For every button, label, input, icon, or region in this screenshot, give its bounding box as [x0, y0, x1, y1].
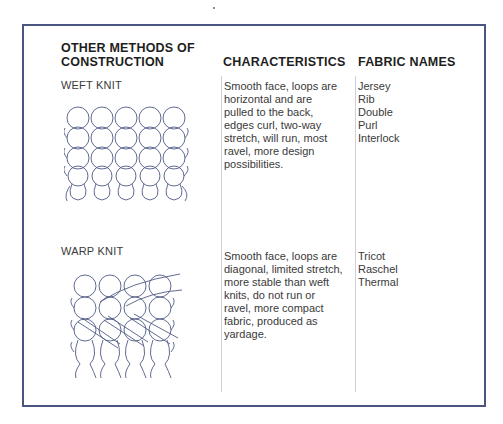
fabric-name: Purl — [358, 119, 468, 132]
fabric-name: Double — [358, 106, 468, 119]
characteristics-line: possibilities. — [224, 158, 352, 171]
header-methods: OTHER METHODS OF CONSTRUCTION — [61, 41, 201, 69]
characteristics-line: more stable than weft — [224, 276, 352, 289]
characteristics-warp-knit: Smooth face, loops are diagonal, limited… — [224, 250, 352, 341]
characteristics-line: yardage. — [224, 328, 352, 341]
header-characteristics: CHARACTERISTICS — [223, 55, 345, 69]
column-divider-characteristics — [221, 76, 222, 392]
header-methods-line2: CONSTRUCTION — [61, 55, 201, 69]
row-label-warp-knit: WARP KNIT — [61, 245, 123, 257]
stray-mark — [213, 7, 215, 9]
header-fabric-names: FABRIC NAMES — [358, 55, 456, 69]
fabric-name: Interlock — [358, 132, 468, 145]
fabric-name: Thermal — [358, 276, 468, 289]
characteristics-line: horizontal and are — [224, 93, 352, 106]
fabric-names-warp-knit: Tricot Raschel Thermal — [358, 250, 468, 289]
row-label-weft-knit: WEFT KNIT — [61, 79, 122, 91]
fabric-name: Jersey — [358, 80, 468, 93]
weft-knit-diagram-icon — [64, 106, 204, 206]
column-divider-fabric-names — [355, 76, 356, 392]
characteristics-line: Smooth face, loops are — [224, 80, 352, 93]
characteristics-line: edges curl, two-way — [224, 119, 352, 132]
header-methods-line1: OTHER METHODS OF — [61, 41, 201, 55]
fabric-name: Tricot — [358, 250, 468, 263]
warp-knit-diagram-icon — [70, 272, 190, 382]
characteristics-line: ravel, more compact — [224, 302, 352, 315]
fabric-names-weft-knit: Jersey Rib Double Purl Interlock — [358, 80, 468, 145]
characteristics-line: diagonal, limited stretch, — [224, 263, 352, 276]
characteristics-line: ravel, more design — [224, 145, 352, 158]
characteristics-weft-knit: Smooth face, loops are horizontal and ar… — [224, 80, 352, 171]
characteristics-line: knits, do not run or — [224, 289, 352, 302]
fabric-name: Raschel — [358, 263, 468, 276]
characteristics-line: stretch, will run, most — [224, 132, 352, 145]
characteristics-line: Smooth face, loops are — [224, 250, 352, 263]
fabric-name: Rib — [358, 93, 468, 106]
characteristics-line: pulled to the back, — [224, 106, 352, 119]
characteristics-line: fabric, produced as — [224, 315, 352, 328]
